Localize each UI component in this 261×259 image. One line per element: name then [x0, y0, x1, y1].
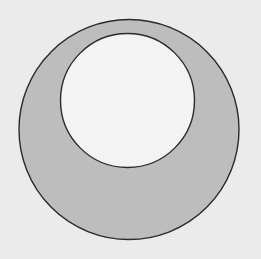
inner-circle: [61, 34, 195, 168]
diagram-canvas: [0, 0, 261, 259]
